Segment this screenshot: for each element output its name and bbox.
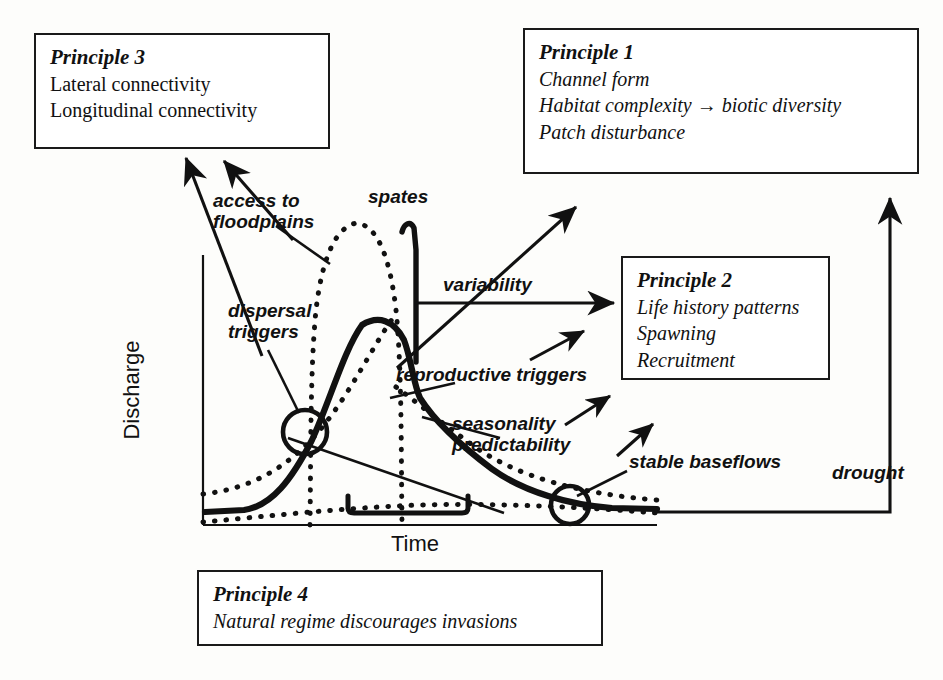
median-hydrograph-curve bbox=[205, 320, 657, 512]
principle-4-box: Principle 4 Natural regime discourages i… bbox=[197, 570, 603, 646]
principle-3-box: Principle 3 Lateral connectivity Longitu… bbox=[34, 33, 330, 149]
annotation-drought: drought bbox=[832, 462, 904, 483]
arrow-seasonality-to-principle2 bbox=[565, 396, 610, 425]
leader-dispersal-to-marker bbox=[268, 350, 299, 413]
annotation-access-line-1: access to bbox=[213, 190, 314, 211]
x-axis-label: Time bbox=[391, 531, 439, 557]
principle-2-line-1: Life history patterns bbox=[637, 294, 814, 321]
principle-1-line-1: Channel form bbox=[539, 66, 903, 93]
low-flow-bracket bbox=[348, 496, 468, 513]
annotation-stable-baseflows: stable baseflows bbox=[629, 451, 781, 472]
principle-2-line-2: Spawning bbox=[637, 320, 814, 347]
principle-3-line-2: Longitudinal connectivity bbox=[50, 97, 314, 124]
principle-2-title: Principle 2 bbox=[637, 267, 814, 294]
principle-4-line-1: Natural regime discourages invasions bbox=[213, 608, 587, 635]
arrow-reproductive-to-principle2 bbox=[530, 331, 584, 360]
annotation-access-to-floodplains: access to floodplains bbox=[213, 190, 314, 233]
principle-1-box: Principle 1 Channel form Habitat complex… bbox=[523, 28, 919, 174]
annotation-seasonality-line-1: seasonality bbox=[452, 413, 570, 434]
annotation-access-line-2: floodplains bbox=[213, 211, 314, 232]
principle-2-line-3: Recruitment bbox=[637, 347, 814, 374]
principle-1-title: Principle 1 bbox=[539, 39, 903, 66]
annotation-dispersal-line-1: dispersal bbox=[228, 300, 311, 321]
annotation-spates: spates bbox=[368, 186, 428, 207]
y-axis-label: Discharge bbox=[119, 340, 145, 439]
principle-3-title: Principle 3 bbox=[50, 44, 314, 71]
upper-variability-envelope bbox=[310, 223, 402, 525]
principle-3-line-1: Lateral connectivity bbox=[50, 71, 314, 98]
principle-2-box: Principle 2 Life history patterns Spawni… bbox=[621, 256, 830, 380]
principle-4-title: Principle 4 bbox=[213, 581, 587, 608]
principle-1-line-3: Patch disturbance bbox=[539, 119, 903, 146]
annotation-dispersal-line-2: triggers bbox=[228, 321, 311, 342]
annotation-reproductive-triggers: reproductive triggers bbox=[396, 364, 587, 385]
principle-1-line-2: Habitat complexity → biotic diversity bbox=[539, 92, 903, 119]
annotation-dispersal-triggers: dispersal triggers bbox=[228, 300, 311, 343]
annotation-variability: variability bbox=[443, 274, 532, 295]
leader-stable-to-marker bbox=[577, 471, 627, 496]
annotation-seasonality-predictability: seasonality predictability bbox=[452, 413, 570, 456]
annotation-seasonality-line-2: predictability bbox=[452, 434, 570, 455]
